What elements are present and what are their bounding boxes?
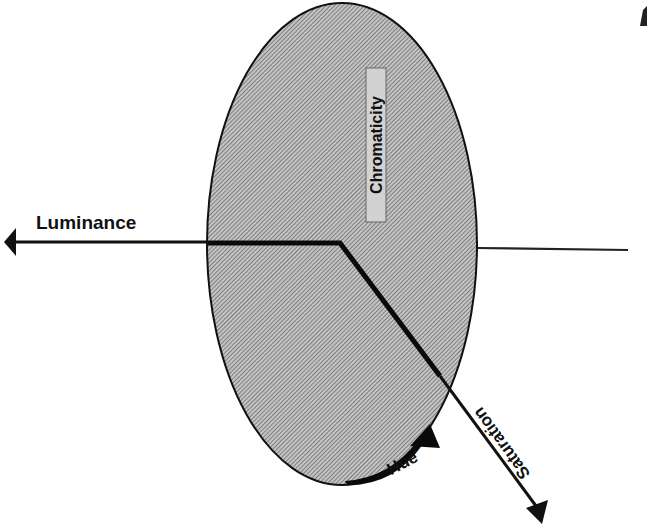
- color-space-diagram: Chromaticity Luminance Hue Saturation: [0, 0, 647, 527]
- saturation-arrow-icon: [526, 500, 548, 524]
- chromaticity-label: Chromaticity: [368, 96, 385, 194]
- edge-fragment-icon: [640, 6, 647, 26]
- luminance-arrow-icon: [4, 228, 16, 256]
- saturation-label: Saturation: [469, 404, 534, 483]
- luminance-label: Luminance: [36, 212, 136, 233]
- chromaticity-label-group: Chromaticity: [366, 68, 386, 222]
- luminance-axis-right: [478, 248, 628, 250]
